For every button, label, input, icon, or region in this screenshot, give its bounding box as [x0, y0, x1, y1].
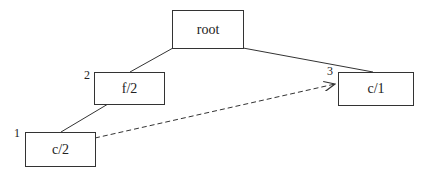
node-c2-label: c/2	[52, 142, 69, 158]
order-label-c2: 1	[14, 126, 20, 141]
order-label-c1: 3	[327, 64, 333, 79]
node-c1-label: c/1	[367, 81, 384, 97]
node-f2-label: f/2	[122, 81, 138, 97]
edge-f2-c2	[61, 104, 108, 132]
node-f2: f/2	[94, 72, 165, 105]
node-c1: c/1	[338, 72, 414, 106]
order-label-f2: 2	[84, 68, 90, 83]
node-root-label: root	[197, 22, 220, 38]
node-root: root	[172, 10, 244, 49]
node-c2: c/2	[25, 132, 96, 167]
edge-root-c1	[243, 48, 373, 72]
edge-root-f2	[130, 48, 173, 72]
